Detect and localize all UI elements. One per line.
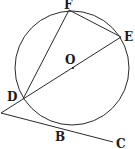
segment-fd [23, 10, 69, 99]
segment-fe [69, 10, 121, 37]
label-e: E [124, 30, 133, 44]
geometry-diagram: F E O D B C [0, 0, 135, 149]
label-o: O [65, 53, 75, 67]
label-d: D [7, 90, 17, 104]
center-point-o [72, 67, 74, 69]
label-f: F [64, 0, 73, 12]
label-b: B [55, 130, 65, 144]
label-c: C [116, 137, 126, 149]
